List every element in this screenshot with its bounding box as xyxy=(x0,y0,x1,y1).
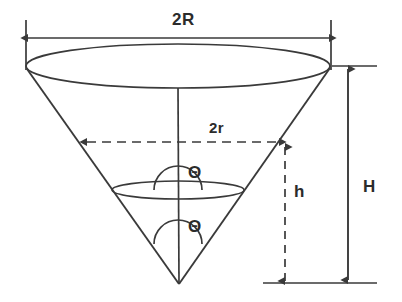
label-angle-lower: Θ xyxy=(188,218,201,235)
cone-diagram: 2R 2r h H Θ Θ xyxy=(0,0,402,302)
cone-right-slant xyxy=(179,68,330,284)
central-axis-line xyxy=(178,88,179,284)
angle-arc-upper-path-left xyxy=(154,166,178,190)
dimension-H xyxy=(263,66,377,283)
label-top-diameter: 2R xyxy=(172,11,195,28)
angle-arc-lower-path-left xyxy=(154,220,178,244)
cone-left-slant xyxy=(27,69,179,284)
cone-diagram-svg xyxy=(0,0,402,302)
label-inner-diameter: 2r xyxy=(209,120,224,135)
label-total-height: H xyxy=(363,178,375,195)
top-rim-ellipse xyxy=(26,44,330,88)
label-angle-upper: Θ xyxy=(188,164,201,181)
label-inner-height: h xyxy=(294,183,304,200)
